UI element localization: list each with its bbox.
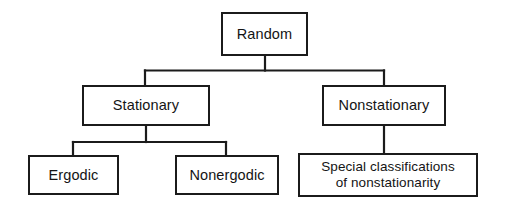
node-nonstationary[interactable]: Nonstationary [322,85,446,126]
node-random[interactable]: Random [221,12,308,56]
node-nonstationary-label: Nonstationary [339,97,430,113]
node-stationary[interactable]: Stationary [82,85,210,126]
node-special-classifications[interactable]: Special classifications of nonstationari… [298,153,478,197]
node-ergodic-label: Ergodic [49,167,99,183]
node-stationary-label: Stationary [113,97,179,113]
node-special-classifications-label: Special classifications of nonstationari… [321,159,455,190]
node-random-label: Random [237,26,292,42]
classification-diagram: Random Stationary Nonstationary Ergodic … [0,0,506,211]
node-ergodic[interactable]: Ergodic [28,155,119,195]
node-nonergodic-label: Nonergodic [189,167,264,183]
node-nonergodic[interactable]: Nonergodic [175,155,279,195]
